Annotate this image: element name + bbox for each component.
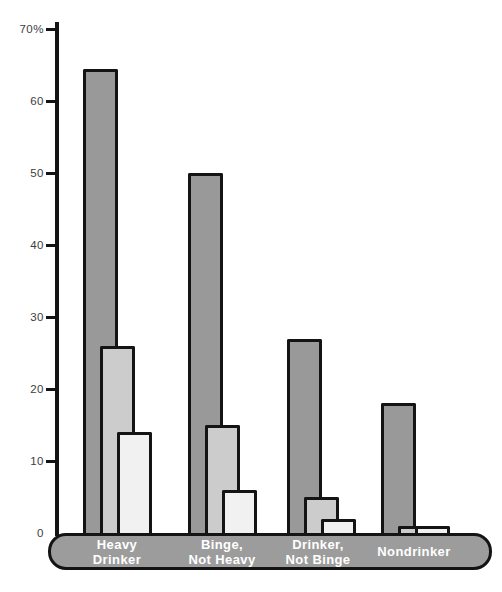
bar-heavy-drinker-series-3-light [117, 432, 152, 536]
y-axis-tick-label: 40 [6, 237, 44, 253]
y-axis-tick-label: 20 [6, 381, 44, 397]
category-label-heavy-drinker: Heavy Drinker [93, 533, 141, 570]
y-axis-tick [46, 28, 55, 31]
y-axis-tick-label: 10 [6, 453, 44, 469]
bar-nondrinker-series-1-dark [381, 403, 416, 536]
y-axis-tick [46, 172, 55, 175]
y-axis-tick [46, 244, 55, 247]
y-axis-tick [46, 388, 55, 391]
category-label-drinker-not-binge: Drinker, Not Binge [286, 533, 351, 570]
y-axis-tick [46, 460, 55, 463]
y-axis-tick-label: 60 [6, 93, 44, 109]
category-label-nondrinker: Nondrinker [377, 533, 450, 570]
bar-chart: 70%6050403020100Heavy DrinkerBinge, Not … [0, 0, 502, 592]
y-axis-tick-label: 0 [6, 525, 44, 541]
y-axis-tick-label: 30 [6, 309, 44, 325]
category-label-binge-not-heavy: Binge, Not Heavy [188, 533, 255, 570]
y-axis-tick [46, 316, 55, 319]
y-axis-tick-label: 50 [6, 165, 44, 181]
y-axis-tick [46, 100, 55, 103]
y-axis-tick-label: 70% [6, 21, 44, 37]
bar-binge-not-heavy-series-3-light [222, 490, 257, 536]
y-axis-line [55, 22, 59, 536]
